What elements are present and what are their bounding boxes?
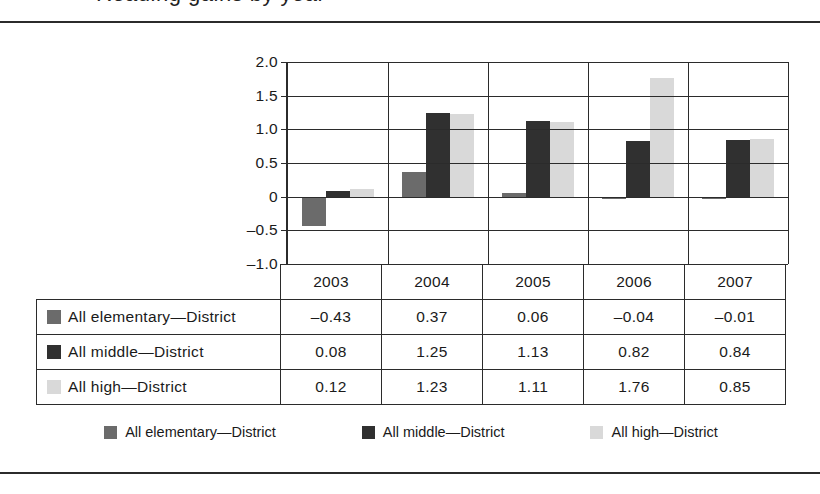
series-swatch-icon — [47, 345, 61, 359]
legend-item: All middle—District — [362, 424, 505, 440]
data-table: 20032004200520062007 All elementary—Dist… — [36, 264, 786, 405]
y-axis-tick-label: 1.0 — [212, 120, 278, 138]
column-separator — [488, 62, 489, 264]
series-swatch-icon — [47, 310, 61, 324]
table-corner-cell — [37, 265, 281, 300]
series-name: All high—District — [68, 378, 187, 395]
series-name: All middle—District — [68, 343, 204, 360]
table-cell-value: 1.25 — [382, 335, 483, 370]
table-cell-value: 0.82 — [584, 335, 685, 370]
bar — [750, 139, 774, 196]
bar — [450, 114, 474, 197]
table-cell-value: 1.23 — [382, 370, 483, 405]
table-row: All elementary—District–0.430.370.06–0.0… — [37, 300, 786, 335]
y-axis-tick — [281, 197, 288, 198]
y-axis-tick — [281, 129, 288, 130]
table-cell-value: 0.84 — [685, 335, 786, 370]
bar — [426, 113, 450, 197]
y-axis-tick-label: 2.0 — [212, 53, 278, 71]
gridline — [288, 62, 788, 63]
bar — [626, 141, 650, 196]
table-column-header: 2005 — [483, 265, 584, 300]
y-axis-tick-label: 1.5 — [212, 87, 278, 105]
table-cell-value: 0.85 — [685, 370, 786, 405]
table-cell-value: 0.37 — [382, 300, 483, 335]
table-cell-value: 1.13 — [483, 335, 584, 370]
table-column-header: 2003 — [281, 265, 382, 300]
table-column-header: 2006 — [584, 265, 685, 300]
table-column-header: 2007 — [685, 265, 786, 300]
legend-item: All high—District — [590, 424, 717, 440]
table-cell-value: –0.01 — [685, 300, 786, 335]
legend-label: All middle—District — [383, 424, 505, 440]
y-axis-tick-label: 0 — [212, 188, 278, 206]
table-row-label: All middle—District — [37, 335, 281, 370]
y-axis-labels: 2.01.51.00.50–0.5–1.0 — [210, 62, 278, 264]
gridline — [288, 163, 788, 164]
table-cell-value: 1.76 — [584, 370, 685, 405]
bar — [526, 121, 550, 197]
table-cell-value: –0.43 — [281, 300, 382, 335]
column-separator — [688, 62, 689, 264]
cropped-title-text: Reading gains by year — [96, 0, 325, 7]
y-axis-tick — [281, 96, 288, 97]
table-body: All elementary—District–0.430.370.06–0.0… — [37, 300, 786, 405]
top-divider-rule — [0, 21, 820, 23]
y-axis-tick — [281, 163, 288, 164]
y-axis-tick — [281, 62, 288, 63]
legend-swatch-icon — [590, 426, 603, 439]
table-cell-value: 0.08 — [281, 335, 382, 370]
bottom-divider-rule — [0, 472, 820, 474]
column-separator — [388, 62, 389, 264]
series-name: All elementary—District — [68, 308, 236, 325]
bar — [550, 122, 574, 197]
legend-item: All elementary—District — [104, 424, 276, 440]
legend-label: All elementary—District — [125, 424, 276, 440]
legend-swatch-icon — [362, 426, 375, 439]
plot-area — [286, 62, 786, 264]
table-row: All middle—District0.081.251.130.820.84 — [37, 335, 786, 370]
table-row-label: All high—District — [37, 370, 281, 405]
table-row: All high—District0.121.231.111.760.85 — [37, 370, 786, 405]
table-column-header: 2004 — [382, 265, 483, 300]
series-swatch-icon — [47, 380, 61, 394]
table-cell-value: –0.04 — [584, 300, 685, 335]
y-axis-tick-label: –0.5 — [212, 221, 278, 239]
chart-legend: All elementary—DistrictAll middle—Distri… — [36, 424, 786, 440]
bar — [402, 172, 426, 197]
table-cell-value: 0.06 — [483, 300, 584, 335]
table-header-row: 20032004200520062007 — [37, 265, 786, 300]
bar — [302, 197, 326, 226]
gridline — [288, 230, 788, 231]
table-cell-value: 1.11 — [483, 370, 584, 405]
bar-chart: 2.01.51.00.50–0.5–1.0 — [286, 62, 786, 264]
gridline — [288, 96, 788, 97]
table-row-label: All elementary—District — [37, 300, 281, 335]
plot-right-border — [788, 62, 789, 264]
cropped-title: Reading gains by year — [0, 0, 820, 14]
legend-swatch-icon — [104, 426, 117, 439]
column-separator — [588, 62, 589, 264]
y-axis-tick-label: 0.5 — [212, 154, 278, 172]
gridline — [288, 129, 788, 130]
gridline — [288, 197, 788, 198]
bar — [350, 189, 374, 197]
y-axis-tick — [281, 230, 288, 231]
bar — [726, 140, 750, 197]
table-cell-value: 0.12 — [281, 370, 382, 405]
legend-label: All high—District — [611, 424, 717, 440]
